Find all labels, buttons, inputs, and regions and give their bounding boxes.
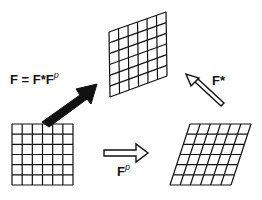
reference-grid	[12, 124, 73, 185]
f-star-label: F*	[212, 73, 225, 88]
grid-line	[138, 22, 139, 87]
f-p-superscript: p	[125, 162, 130, 172]
hollow-arrow-right-icon	[104, 144, 148, 162]
grid-line	[157, 15, 158, 79]
grid-line	[109, 32, 110, 97]
equation-lhs: F	[10, 72, 18, 87]
decomposition-diagram	[0, 0, 262, 200]
f-p-base: F	[117, 164, 125, 179]
current-distorted-grid	[170, 124, 251, 185]
grid-line	[119, 29, 120, 94]
f-star-text: F*	[212, 73, 225, 88]
solid-arrow-icon	[42, 84, 97, 127]
intermediate-sheared-grid	[109, 12, 167, 97]
grid-line	[147, 19, 148, 83]
equation-superscript: p	[54, 70, 59, 80]
equation-f: F	[46, 72, 54, 87]
equation-equals: =	[22, 72, 30, 87]
equation-label: F = F*Fp	[10, 70, 59, 87]
equation-f-star: F*	[33, 72, 46, 87]
grid-line	[166, 12, 167, 76]
grid-line	[128, 25, 129, 90]
f-p-label: Fp	[117, 162, 130, 179]
